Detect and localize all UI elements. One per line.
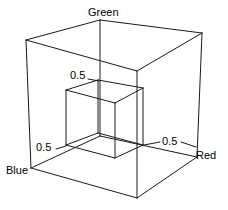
inner-edge-top-back-right — [98, 80, 143, 88]
axis-label-green: Green — [88, 6, 119, 18]
outer-edge-vertical-blue — [26, 40, 31, 168]
tick-leader-red-outer — [181, 142, 196, 147]
outer-edge-top-left-front — [26, 40, 137, 71]
inner-edge-top-front-right — [115, 88, 143, 103]
axis-label-blue: Blue — [6, 164, 28, 176]
outer-cube-group — [26, 20, 202, 198]
outer-edge-top-left-back — [26, 20, 100, 40]
outer-edge-vertical-red — [197, 33, 202, 157]
inner-edge-top-left-back — [66, 80, 98, 90]
tick-leader-blue — [56, 146, 66, 149]
outer-edge-bottom-front-red — [137, 157, 197, 198]
axis-label-red: Red — [196, 149, 216, 161]
inner-edge-bottom-front-right — [115, 145, 143, 158]
outer-edge-top-back-right — [100, 20, 202, 33]
cube-wireframe-svg — [0, 0, 228, 210]
outer-edge-top-front-right — [137, 33, 202, 71]
tick-label-blue-half: 0.5 — [36, 141, 51, 153]
inner-edge-bottom-left-front — [66, 145, 115, 158]
inner-edge-bottom-back-right — [98, 133, 143, 145]
outer-edge-bottom-blue-front — [31, 168, 137, 198]
rgb-cube-figure: Green Red Blue 0.5 0.5 0.5 — [0, 0, 228, 210]
tick-leader-red — [144, 142, 160, 145]
tick-label-red-half: 0.5 — [162, 135, 177, 147]
tick-label-green-half: 0.5 — [70, 69, 85, 81]
inner-edge-top-left-front — [66, 90, 115, 103]
